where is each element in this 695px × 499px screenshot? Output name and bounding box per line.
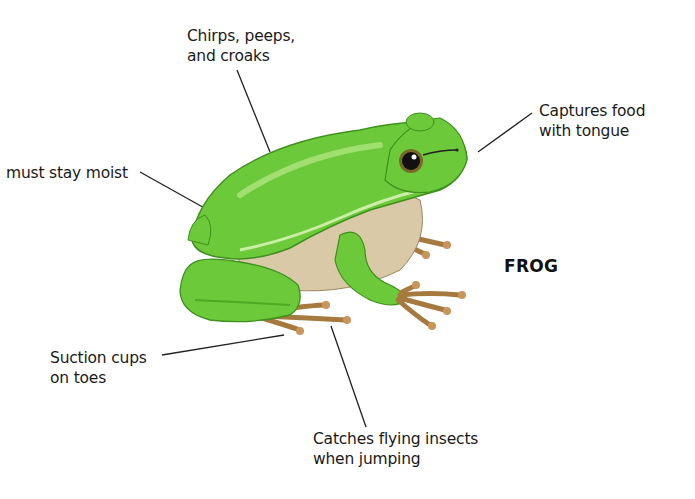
label-jump-line1: Catches flying insects xyxy=(313,429,478,449)
label-sound-line2: and croaks xyxy=(187,46,295,66)
label-jump-line2: when jumping xyxy=(313,449,478,469)
label-sound-line1: Chirps, peeps, xyxy=(187,26,295,46)
label-toes-line2: on toes xyxy=(50,368,147,388)
frog-illustration xyxy=(0,0,695,499)
label-skin: must stay moist xyxy=(6,163,128,183)
label-toes: Suction cups on toes xyxy=(50,348,147,388)
label-sound: Chirps, peeps, and croaks xyxy=(187,26,295,66)
label-toes-line1: Suction cups xyxy=(50,348,147,368)
label-food-line2: with tongue xyxy=(539,121,645,141)
label-food-line1: Captures food xyxy=(539,101,645,121)
front-foot-toes-icon xyxy=(398,286,460,325)
diagram-title: FROG xyxy=(504,256,558,276)
label-skin-line1: must stay moist xyxy=(6,163,128,183)
label-food: Captures food with tongue xyxy=(539,101,645,141)
label-jump: Catches flying insects when jumping xyxy=(313,429,478,469)
frog-diagram: Chirps, peeps, and croaks must stay mois… xyxy=(0,0,695,499)
